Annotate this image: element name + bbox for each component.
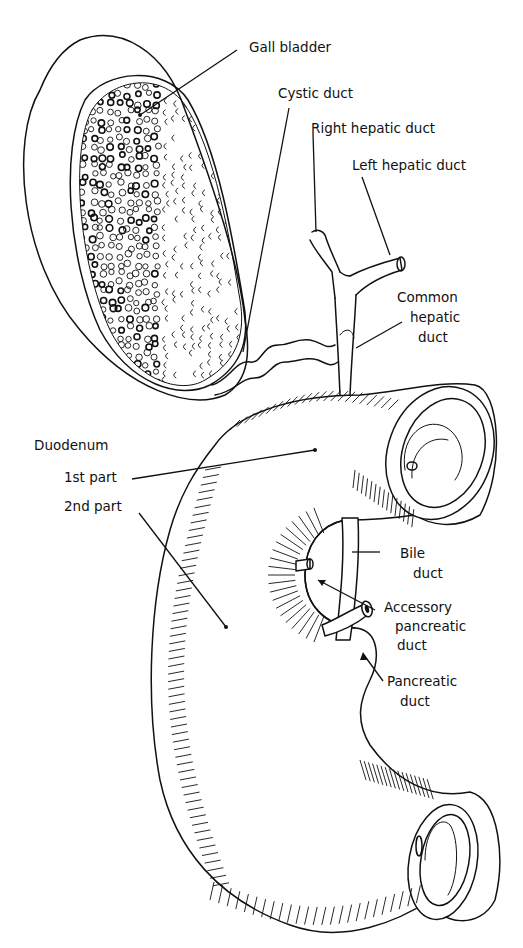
mucosa-fold bbox=[208, 359, 211, 365]
mucosa-fold bbox=[152, 306, 157, 311]
mucosa-fold bbox=[221, 110, 224, 116]
mucosa-fold bbox=[98, 388, 104, 394]
mucosa-fold bbox=[127, 316, 133, 322]
mucosa-fold bbox=[218, 234, 221, 240]
mucosa-fold bbox=[74, 197, 80, 203]
mucosa-fold bbox=[217, 315, 220, 321]
mucosa-fold bbox=[152, 118, 158, 124]
mucosa-fold bbox=[128, 188, 133, 193]
label-left-hepatic-duct: Left hepatic duct bbox=[352, 157, 466, 173]
mucosa-fold bbox=[97, 137, 103, 143]
label-accessory-pancreatic-duct-1: Accessory bbox=[384, 599, 452, 615]
mucosa-fold bbox=[171, 116, 174, 122]
mucosa-fold bbox=[134, 334, 140, 340]
mucosa-fold bbox=[153, 369, 158, 374]
mucosa-fold bbox=[209, 233, 212, 239]
mucosa-fold bbox=[127, 296, 133, 302]
mucosa-fold bbox=[191, 235, 194, 241]
mucosa-fold bbox=[200, 244, 203, 250]
mucosa-fold bbox=[117, 255, 123, 261]
mucosa-fold bbox=[82, 355, 87, 360]
mucosa-fold bbox=[191, 334, 194, 340]
mucosa-fold bbox=[143, 264, 148, 269]
mucosa-fold bbox=[238, 208, 241, 214]
mucosa-fold bbox=[228, 147, 231, 153]
mucosa-fold bbox=[106, 225, 113, 232]
mucosa-fold bbox=[116, 173, 122, 179]
mucosa-fold bbox=[106, 254, 113, 261]
mucosa-fold bbox=[136, 263, 142, 269]
mucosa-fold bbox=[175, 216, 178, 222]
mucosa-fold bbox=[91, 82, 97, 88]
mucosa-fold bbox=[151, 180, 158, 187]
mucosa-fold bbox=[244, 255, 247, 261]
mucosa-fold bbox=[236, 84, 239, 90]
mucosa-fold bbox=[71, 162, 77, 168]
mucosa-fold bbox=[246, 108, 249, 114]
mucosa-fold bbox=[92, 144, 98, 150]
mucosa-fold bbox=[166, 353, 169, 359]
mucosa-fold bbox=[88, 317, 94, 323]
mucosa-fold bbox=[192, 343, 195, 349]
label-cystic-duct: Cystic duct bbox=[278, 85, 353, 101]
mucosa-fold bbox=[108, 192, 114, 198]
mucosa-fold bbox=[135, 389, 140, 394]
mucosa-fold bbox=[108, 371, 114, 377]
mucosa-fold bbox=[99, 164, 105, 170]
mucosa-fold bbox=[172, 254, 175, 260]
mucosa-fold bbox=[72, 261, 78, 267]
accessory-pancreatic-duct bbox=[296, 559, 313, 571]
mucosa-fold bbox=[181, 174, 184, 180]
mucosa-fold bbox=[146, 201, 151, 206]
mucosa-fold bbox=[229, 279, 232, 285]
mucosa-fold bbox=[238, 163, 241, 169]
mucosa-fold bbox=[176, 81, 179, 87]
mucosa-fold bbox=[115, 79, 122, 86]
mucosa-fold bbox=[135, 235, 141, 241]
mucosa-fold bbox=[207, 80, 210, 86]
mucosa-fold bbox=[172, 135, 175, 141]
mucosa-fold bbox=[108, 120, 114, 126]
mucosa-fold bbox=[82, 224, 87, 229]
mucosa-fold bbox=[190, 165, 193, 171]
mucosa-fold bbox=[127, 209, 133, 215]
mucosa-fold bbox=[201, 372, 204, 378]
mucosa-fold bbox=[107, 334, 113, 340]
mucosa-fold bbox=[236, 89, 239, 95]
mucosa-fold bbox=[136, 200, 142, 206]
mucosa-fold bbox=[134, 172, 140, 178]
mucosa-fold bbox=[72, 359, 78, 365]
mucosa-fold bbox=[114, 90, 120, 96]
mucosa-fold bbox=[210, 333, 213, 339]
mucosa-fold bbox=[199, 201, 202, 207]
mucosa-fold bbox=[88, 388, 94, 394]
mucosa-fold bbox=[152, 282, 157, 287]
mucosa-fold bbox=[190, 281, 193, 287]
mucosa-fold bbox=[125, 250, 132, 257]
mucosa-fold bbox=[97, 181, 104, 188]
mucosa-fold bbox=[127, 323, 133, 329]
mucosa-fold bbox=[211, 317, 214, 323]
gall-bladder-serosa bbox=[24, 36, 248, 400]
mucosa-fold bbox=[108, 99, 114, 105]
mucosa-fold bbox=[137, 253, 142, 258]
mucosa-fold bbox=[154, 92, 160, 98]
mucosa-fold bbox=[108, 242, 114, 248]
mucosa-fold bbox=[226, 197, 229, 203]
mucosa-fold bbox=[108, 318, 113, 323]
mucosa-fold bbox=[80, 300, 86, 306]
mucosa-fold bbox=[145, 146, 150, 151]
mucosa-fold bbox=[192, 288, 195, 294]
mucosa-fold bbox=[182, 332, 185, 338]
mucosa-fold bbox=[238, 227, 241, 233]
mucosa-fold bbox=[217, 273, 220, 279]
mucosa-fold bbox=[116, 134, 122, 140]
mucosa-fold bbox=[163, 336, 166, 342]
mucosa-fold bbox=[182, 315, 185, 321]
mucosa-fold bbox=[146, 206, 151, 211]
mucosa-fold bbox=[81, 389, 87, 395]
mucosa-fold bbox=[245, 172, 248, 178]
mucosa-fold bbox=[97, 253, 103, 259]
mucosa-fold bbox=[142, 363, 148, 369]
mucosa-fold bbox=[98, 120, 104, 126]
